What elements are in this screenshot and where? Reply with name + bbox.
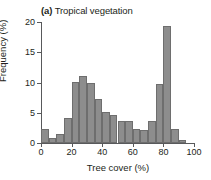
y-tick-label: 5 [30,108,35,117]
y-tick-label: 10 [25,78,35,87]
panel-title-text: Tropical vegetation [55,5,133,16]
histogram-bar [156,84,164,143]
x-tick-label: 0 [38,148,43,157]
histogram-bar [49,138,57,143]
panel-letter: (a) [41,5,52,16]
y-tick-label: 15 [25,48,35,57]
y-tick-label: 0 [30,139,35,148]
x-tick-label: 60 [128,148,138,157]
y-tick-mark [37,113,41,114]
x-tick-label: 40 [97,148,107,157]
histogram-bar [41,129,49,143]
histogram-bar [171,129,179,143]
chart-title: (a) Tropical vegetation [41,5,133,16]
histogram-bar [79,76,87,143]
histogram-bar [64,118,72,143]
histogram-bar [148,121,156,143]
y-tick-label: 20 [25,18,35,27]
histogram-bar [125,121,133,143]
histogram-bar [72,82,80,143]
histogram-bar [118,121,126,143]
y-axis-label: Frequency (%) [0,20,8,82]
histogram-bar [102,112,110,143]
histogram-bar [95,99,103,143]
x-tick-label: 80 [158,148,168,157]
histogram-bar [87,83,95,144]
histogram-bar [56,134,64,143]
plot-area: 05101520 020406080100 [41,22,194,143]
y-tick-mark [37,22,41,23]
histogram-bar [179,140,187,143]
histogram-bar [163,26,171,143]
x-tick-label: 100 [186,148,201,157]
y-tick-mark [37,52,41,53]
histogram-bar [133,129,141,143]
x-axis-label: Tree cover (%) [41,163,195,173]
figure-panel-a: (a) Tropical vegetation Frequency (%) Tr… [0,0,211,180]
x-tick-label: 20 [67,148,77,157]
x-axis-spine [41,143,195,144]
y-tick-mark [37,83,41,84]
histogram-bar [140,130,148,143]
histogram-bar [110,115,118,143]
